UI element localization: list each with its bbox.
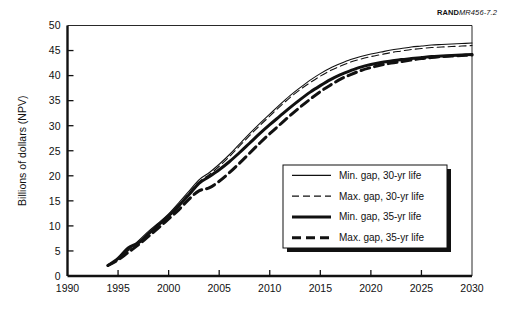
x-tick-label-2015: 2015	[309, 282, 333, 294]
y-tick-label-40: 40	[49, 69, 61, 81]
x-tick-label-2005: 2005	[208, 282, 232, 294]
x-tick-label-2010: 2010	[258, 282, 282, 294]
y-tick-label-5: 5	[55, 245, 61, 257]
y-tick-label-35: 35	[49, 94, 61, 106]
y-tick-label-15: 15	[49, 195, 61, 207]
legend-label-0: Min. gap, 30-yr life	[339, 170, 422, 181]
x-tick-label-2030: 2030	[460, 282, 484, 294]
x-tick-label-2000: 2000	[157, 282, 181, 294]
x-tick-label-2025: 2025	[410, 282, 434, 294]
y-axis-title-group: Billions of dollars (NPV)	[16, 96, 28, 206]
legend-label-3: Max. gap, 35-yr life	[339, 232, 424, 243]
y-tick-label-0: 0	[55, 270, 61, 282]
x-tick-label-1995: 1995	[106, 282, 130, 294]
y-axis-title: Billions of dollars (NPV)	[16, 96, 28, 206]
legend-label-1: Max. gap, 30-yr life	[339, 191, 424, 202]
axes: 0510152025303540455019901995200020052010…	[49, 19, 484, 294]
y-tick-label-30: 30	[49, 120, 61, 132]
y-tick-label-20: 20	[49, 170, 61, 182]
legend-label-2: Min. gap, 35-yr life	[339, 211, 422, 222]
chart-canvas: 0510152025303540455019901995200020052010…	[0, 0, 511, 315]
x-tick-label-1990: 1990	[56, 282, 80, 294]
y-tick-label-10: 10	[49, 220, 61, 232]
y-tick-label-25: 25	[49, 145, 61, 157]
y-tick-label-45: 45	[49, 44, 61, 56]
legend: Min. gap, 30-yr lifeMax. gap, 30-yr life…	[283, 165, 451, 252]
x-tick-label-2020: 2020	[359, 282, 383, 294]
y-tick-label-50: 50	[49, 19, 61, 31]
